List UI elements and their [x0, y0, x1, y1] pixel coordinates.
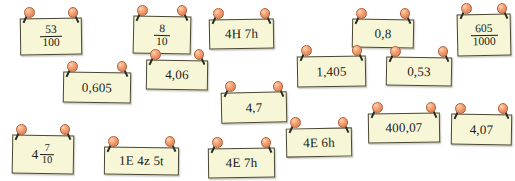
pushpin-icon — [212, 137, 228, 155]
card-label: 400,07 — [385, 121, 422, 136]
pushpin-icon — [67, 61, 83, 79]
pushpin-head — [390, 46, 401, 57]
pushpin-icon — [332, 117, 348, 135]
pushpin-icon — [24, 7, 40, 25]
card-label: 4E 7h — [226, 156, 258, 170]
card-label: 4,06 — [165, 68, 189, 82]
pushpin-icon — [137, 5, 153, 23]
pushpin-head — [260, 8, 271, 19]
card-label: 1,405 — [316, 64, 346, 79]
fraction-numerator: 8 — [157, 23, 167, 35]
fraction-denominator: 10 — [154, 35, 170, 48]
pushpin-icon — [159, 136, 175, 154]
pushpin-head — [150, 49, 161, 60]
mixed-number: 4710 — [31, 143, 54, 166]
pushpin-head — [273, 81, 284, 92]
card-label: 0,53 — [407, 64, 431, 78]
pushpin-head — [356, 8, 367, 19]
pushpin-icon — [188, 49, 204, 67]
pushpin-head — [194, 49, 205, 60]
pushpin-icon — [492, 103, 508, 121]
pushpin-head — [225, 81, 236, 92]
fraction: 810 — [154, 23, 170, 48]
pushpin-icon — [255, 137, 271, 155]
pushpin-icon — [491, 3, 507, 21]
fraction: 6051000 — [470, 22, 498, 47]
pushpin-head — [177, 5, 188, 16]
pushpin-head — [461, 3, 472, 14]
fraction-numerator: 7 — [43, 143, 52, 154]
pushpin-icon — [16, 124, 32, 142]
pushpin-head — [24, 7, 35, 18]
pushpin-head — [68, 7, 79, 18]
pushpin-icon — [461, 3, 477, 21]
fraction: 53100 — [40, 24, 62, 49]
pushpin-head — [212, 137, 223, 148]
pushpin-icon — [301, 45, 317, 63]
pushpin-head — [67, 61, 78, 72]
pushpin-icon — [432, 46, 448, 64]
card-label: 1E 4z 5t — [119, 154, 164, 168]
pushpin-icon — [54, 124, 70, 142]
pinned-cards-board: 531008104H 7h0,860510004,061,4050,530,60… — [0, 0, 515, 181]
pushpin-icon — [150, 49, 166, 67]
pushpin-head — [438, 46, 449, 57]
pushpin-icon — [267, 81, 283, 99]
pushpin-icon — [356, 8, 372, 26]
pushpin-icon — [213, 8, 229, 26]
pushpin-icon — [108, 136, 124, 154]
pushpin-icon — [390, 46, 406, 64]
pushpin-head — [455, 103, 466, 114]
card-label: 0,605 — [82, 80, 112, 94]
pushpin-icon — [111, 61, 127, 79]
pushpin-head — [117, 61, 128, 72]
pushpin-head — [426, 102, 437, 113]
pushpin-icon — [346, 45, 362, 63]
fraction-numerator: 53 — [43, 24, 59, 36]
card-label: 4,7 — [245, 100, 262, 114]
card-label: 4,07 — [470, 122, 494, 136]
pushpin-head — [213, 8, 224, 19]
pushpin-icon — [171, 5, 187, 23]
fraction: 710 — [40, 143, 55, 166]
pushpin-head — [400, 8, 411, 19]
card-label: 0,8 — [374, 26, 391, 40]
pushpin-head — [165, 136, 176, 147]
pushpin-icon — [62, 7, 78, 25]
fraction-denominator: 1000 — [470, 34, 497, 47]
fraction-denominator: 100 — [40, 36, 61, 49]
pushpin-head — [352, 45, 363, 56]
pushpin-head — [60, 124, 71, 135]
card-label: 4E 6h — [303, 135, 335, 150]
pushpin-head — [290, 117, 301, 128]
pushpin-icon — [254, 8, 270, 26]
fraction-denominator: 10 — [40, 154, 55, 166]
pushpin-icon — [455, 103, 471, 121]
pushpin-head — [338, 117, 349, 128]
pushpin-icon — [420, 102, 436, 120]
pushpin-head — [498, 103, 509, 114]
card-label: 4H 7h — [225, 27, 258, 42]
mixed-number-whole: 4 — [32, 148, 39, 162]
pushpin-icon — [290, 117, 306, 135]
pushpin-head — [372, 102, 383, 113]
pushpin-head — [16, 124, 27, 135]
fraction-numerator: 605 — [473, 23, 494, 35]
pushpin-head — [497, 3, 508, 14]
pushpin-head — [261, 137, 272, 148]
pushpin-icon — [225, 81, 241, 99]
pushpin-icon — [372, 102, 388, 120]
pushpin-head — [301, 45, 312, 56]
pushpin-head — [108, 136, 119, 147]
pushpin-icon — [394, 8, 410, 26]
pushpin-head — [137, 5, 148, 16]
